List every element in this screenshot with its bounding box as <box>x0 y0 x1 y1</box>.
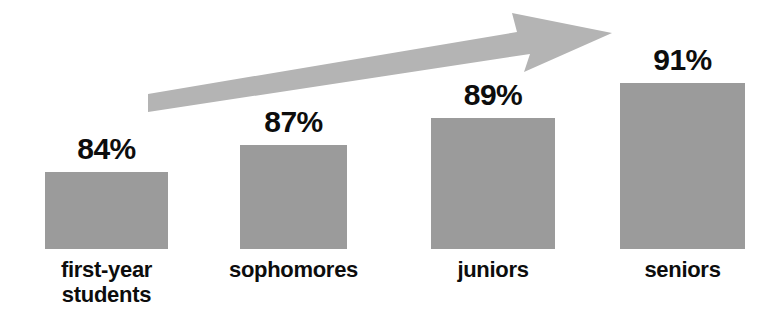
bar-rect <box>620 83 745 249</box>
bar-chart: 84% first-year students 87% sophomores 8… <box>0 0 780 336</box>
bar-value-label: 84% <box>45 134 168 164</box>
bar-caption: seniors <box>600 257 765 282</box>
bar-rect <box>240 145 347 249</box>
bar-value-label: 87% <box>240 107 347 137</box>
bar-rect <box>431 118 555 249</box>
bar-caption: first-year students <box>10 257 203 307</box>
bar-value-label: 91% <box>620 45 745 75</box>
bar-rect <box>45 172 168 249</box>
bar-caption: juniors <box>411 257 575 282</box>
bar-caption: sophomores <box>200 257 387 282</box>
bar-value-label: 89% <box>431 80 555 110</box>
